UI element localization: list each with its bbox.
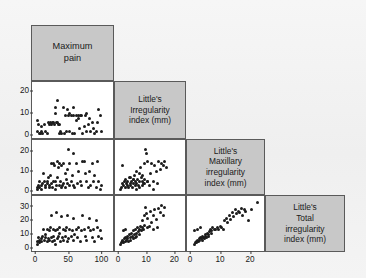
data-point (73, 132, 76, 135)
data-point (54, 112, 57, 115)
data-point (141, 219, 144, 222)
variable-name-little_maxillary: Little's Maxillary irregularity index (m… (203, 146, 249, 188)
x-tick-3-20: 20 (245, 255, 254, 264)
data-point (157, 207, 160, 210)
data-point (67, 237, 70, 240)
data-point (42, 228, 45, 231)
data-point (138, 186, 141, 189)
data-point (163, 206, 166, 209)
data-point (54, 106, 57, 109)
y-tick-3-20: 20 (20, 215, 29, 224)
diagonal-label-cell-max_pain: Maximum pain (31, 25, 114, 81)
data-point (144, 206, 147, 209)
data-point (199, 226, 202, 229)
diagonal-label-cell-little_maxillary: Little's Maxillary irregularity index (m… (186, 139, 265, 195)
data-point (256, 201, 259, 204)
data-point (138, 233, 141, 236)
data-point (49, 174, 52, 177)
data-point (81, 132, 84, 135)
data-point (42, 172, 45, 175)
data-point (71, 174, 74, 177)
variable-name-max_pain: Maximum pain (51, 41, 95, 64)
variable-name-little_irreg: Little's Irregularity index (mm) (127, 94, 173, 126)
data-point (153, 208, 156, 211)
scatter-panel-r3c3: 01020 (186, 195, 265, 252)
y-tick-1-20: 20 (20, 86, 29, 95)
data-point (92, 228, 95, 231)
data-point (60, 215, 63, 218)
scatter-panel-r2c2 (114, 139, 186, 195)
scatter-panel-r1c1: 01020 (31, 81, 114, 139)
y-tick-2-20: 20 (20, 146, 29, 155)
data-point (146, 180, 149, 183)
data-point (210, 232, 213, 235)
data-point (72, 106, 75, 109)
data-point (152, 188, 155, 191)
data-point (149, 210, 152, 213)
data-point (99, 114, 102, 117)
data-point (149, 172, 152, 175)
data-point (58, 123, 61, 126)
y-tick-2-10: 10 (20, 166, 29, 175)
x-tick-3-10: 10 (215, 255, 224, 264)
data-point (44, 186, 47, 189)
data-point (58, 226, 61, 229)
data-point (91, 121, 94, 124)
data-point (66, 108, 69, 111)
data-point (141, 174, 144, 177)
data-point (207, 235, 210, 238)
data-point (87, 123, 90, 126)
y-tick-1-0: 0 (24, 130, 29, 139)
x-tick-2-0: 0 (116, 255, 121, 264)
data-point (156, 182, 159, 185)
data-point (96, 160, 99, 163)
diagonal-label-cell-little_irreg: Little's Irregularity index (mm) (114, 81, 186, 139)
x-tick-1-0: 0 (33, 255, 38, 264)
data-point (53, 164, 56, 167)
data-point (68, 162, 71, 165)
data-point (80, 114, 83, 117)
x-tick-2-10: 10 (142, 255, 151, 264)
data-point (225, 217, 228, 220)
data-point (152, 214, 155, 217)
x-tick-3-0: 0 (188, 255, 193, 264)
data-point (83, 228, 86, 231)
data-point (152, 228, 155, 231)
data-point (36, 119, 39, 122)
data-point (72, 152, 75, 155)
data-point (66, 214, 69, 217)
y-tick-2-0: 0 (24, 186, 29, 195)
data-point (88, 117, 91, 120)
data-point (85, 112, 88, 115)
data-point (76, 236, 79, 239)
data-point (73, 186, 76, 189)
data-point (226, 221, 229, 224)
splom-grid: Maximum painLittle's Irregularity index … (31, 25, 345, 252)
data-point (146, 217, 149, 220)
data-point (145, 152, 148, 155)
scatterplot-matrix-figure: Maximum painLittle's Irregularity index … (0, 0, 366, 278)
data-point (95, 219, 98, 222)
data-point (50, 214, 53, 217)
data-point (155, 218, 158, 221)
data-point (162, 214, 165, 217)
data-point (146, 160, 149, 163)
y-tick-3-0: 0 (24, 243, 29, 252)
data-point (54, 243, 57, 246)
data-point (70, 235, 73, 238)
data-point (229, 218, 232, 221)
data-point (93, 174, 96, 177)
data-point (232, 215, 235, 218)
data-point (68, 184, 71, 187)
data-point (131, 186, 134, 189)
variable-name-little_total: Little's Total irregularity index (mm) (282, 202, 328, 244)
data-point (48, 229, 51, 232)
data-point (96, 121, 99, 124)
data-point (46, 132, 49, 135)
data-point (40, 188, 43, 191)
data-point (54, 188, 57, 191)
data-point (121, 164, 124, 167)
data-point (72, 217, 75, 220)
data-point (55, 211, 58, 214)
data-point (56, 99, 59, 102)
